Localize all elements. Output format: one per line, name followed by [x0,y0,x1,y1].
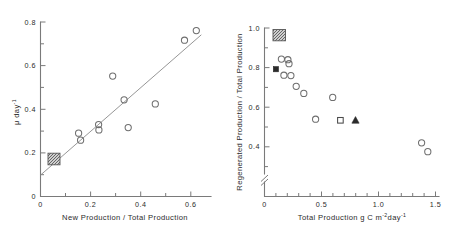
left-xtick-0: 0 [38,200,43,209]
chart-panel-left: 0 0.2 0.4 0.6 0.8 0 0.2 0.4 0.6 New Prod… [0,0,226,245]
left-ytick-08: 0.8 [25,18,37,27]
data-point [193,28,199,34]
left-y-axis-title: μ day-1 [11,99,21,125]
right-x-axis-title: Total Production g C m-2day-1 [298,212,406,222]
left-xtick-02: 0.2 [85,200,97,209]
right-ytick-04: 0.4 [249,142,261,151]
right-x-axis-title-main: Total Production g C m [298,213,383,222]
right-xtick-05: 0.5 [316,200,328,209]
data-point [293,83,299,89]
right-xtick-0: 0 [262,200,267,209]
left-ytick-06: 0.6 [25,61,37,70]
right-y-axis-title: Regenerated Production / Total Productio… [235,33,244,190]
left-plot-svg: 0 0.2 0.4 0.6 0.8 0 0.2 0.4 0.6 New Prod… [0,0,226,245]
data-point [301,90,307,96]
left-x-ticks [41,192,191,197]
right-y-ticks [265,28,270,167]
left-hatched-box [48,153,60,165]
right-hatched-box [273,30,286,41]
data-point [278,56,284,62]
data-point [181,37,187,43]
data-point [76,130,82,136]
right-data-points [278,56,431,155]
data-point [419,140,425,146]
right-plot-svg: 1.0 0.8 0.6 0.4 0 0.5 1.0 1.5 Total Prod… [226,0,451,245]
right-x-axis-title-sup2: -1 [401,212,406,218]
data-point-filled-square [273,67,278,72]
right-ytick-10: 1.0 [249,24,261,33]
right-ytick-08: 0.8 [249,63,261,72]
data-point [152,101,158,107]
right-y-axis-title-text: Regenerated Production / Total Productio… [235,33,244,190]
data-point [330,94,336,100]
left-y-ticks [41,22,46,197]
right-ytick-06: 0.6 [249,103,261,112]
right-xtick-15: 1.5 [430,200,442,209]
right-x-axis-title-mid: day [388,213,401,222]
data-point [313,116,319,122]
data-point [110,73,116,79]
right-xtick-10: 1.0 [373,200,385,209]
svg-text:μ day-1: μ day-1 [11,99,21,125]
left-data-points [76,28,200,144]
data-point [125,125,131,131]
data-point-filled-triangle [352,117,359,124]
scatter-figure: 0 0.2 0.4 0.6 0.8 0 0.2 0.4 0.6 New Prod… [0,0,451,245]
data-point [425,149,431,155]
chart-panel-right: 1.0 0.8 0.6 0.4 0 0.5 1.0 1.5 Total Prod… [226,0,451,245]
data-point [281,72,287,78]
left-ytick-04: 0.4 [25,105,37,114]
left-trend-line [41,35,202,175]
data-point-open-square [338,118,344,124]
data-point [285,57,291,63]
left-y-axis-title-sup: -1 [11,99,17,104]
right-x-ticks [265,192,436,197]
left-ytick-0: 0 [32,192,37,201]
left-xtick-06: 0.6 [185,200,197,209]
left-ytick-02: 0.2 [25,148,37,157]
left-y-axis-title-text: μ day [12,104,21,124]
left-x-axis-title: New Production / Total Production [62,213,188,222]
data-point [288,73,294,79]
left-xtick-04: 0.4 [135,200,147,209]
data-point [286,61,292,67]
